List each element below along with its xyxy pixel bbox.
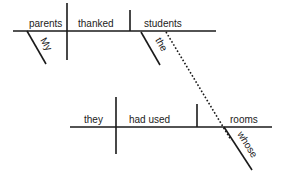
main-object: students — [144, 18, 182, 29]
relative-subject: they — [84, 114, 103, 125]
object-modifier: the — [153, 36, 170, 54]
sentence-diagram: parents thanked students My the they had… — [0, 0, 287, 176]
relative-object: rooms — [230, 114, 258, 125]
main-verb: thanked — [78, 18, 114, 29]
relative-object-modifier: whose — [235, 128, 260, 160]
main-subject: parents — [29, 18, 62, 29]
the-modifier-line — [141, 32, 160, 65]
main-clause — [13, 3, 216, 65]
relative-verb: had used — [129, 114, 170, 125]
subject-modifier: My — [38, 36, 54, 53]
relative-connector-dotted — [166, 32, 231, 140]
